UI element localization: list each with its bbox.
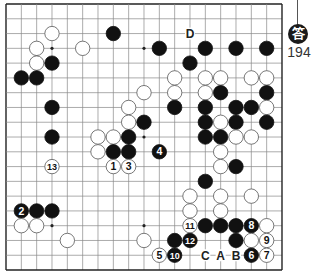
star-point <box>50 224 53 227</box>
white-stone <box>29 41 43 55</box>
star-point <box>50 47 53 50</box>
white-stone <box>229 130 243 144</box>
white-stone: 1 <box>106 159 120 173</box>
white-stone <box>29 56 43 70</box>
black-stone <box>45 130 59 144</box>
black-stone <box>29 204 43 218</box>
black-stone <box>198 219 212 233</box>
white-stone <box>106 130 120 144</box>
black-stone: 8 <box>244 219 258 233</box>
black-stone <box>14 71 28 85</box>
move-number: 8 <box>248 219 254 231</box>
white-stone <box>198 71 212 85</box>
white-stone: 11 <box>183 219 197 233</box>
move-number: 3 <box>126 160 132 172</box>
black-stone <box>198 41 212 55</box>
move-number: 7 <box>264 249 270 261</box>
black-stone <box>213 130 227 144</box>
move-number: 2 <box>18 205 24 217</box>
answer-badge-icon: 答 <box>288 24 308 44</box>
black-stone <box>45 56 59 70</box>
white-stone: 3 <box>121 159 135 173</box>
black-stone: 4 <box>152 145 166 159</box>
black-stone <box>137 115 151 129</box>
black-stone <box>229 100 243 114</box>
white-stone <box>244 233 258 247</box>
white-stone <box>183 189 197 203</box>
black-stone <box>152 41 166 55</box>
move-number: 12 <box>185 236 195 246</box>
black-stone <box>213 219 227 233</box>
white-stone <box>244 130 258 144</box>
star-point <box>142 224 145 227</box>
white-stone <box>259 219 273 233</box>
white-stone <box>213 145 227 159</box>
black-stone <box>45 100 59 114</box>
problem-number: 194 <box>284 44 314 60</box>
white-stone <box>259 71 273 85</box>
white-stone <box>75 41 89 55</box>
move-number: 9 <box>264 234 270 246</box>
black-stone <box>259 85 273 99</box>
white-stone: 13 <box>45 159 59 173</box>
white-stone <box>14 219 28 233</box>
white-stone <box>29 219 43 233</box>
black-stone <box>259 41 273 55</box>
black-stone <box>121 130 135 144</box>
black-stone <box>229 41 243 55</box>
white-stone <box>91 145 105 159</box>
black-stone <box>198 100 212 114</box>
black-stone <box>121 145 135 159</box>
black-stone <box>198 130 212 144</box>
black-stone <box>229 219 243 233</box>
white-stone <box>137 233 151 247</box>
white-stone <box>259 100 273 114</box>
white-stone <box>213 115 227 129</box>
white-stone <box>60 233 74 247</box>
white-stone <box>167 85 181 99</box>
white-stone <box>91 130 105 144</box>
white-stone <box>121 100 135 114</box>
black-stone <box>106 26 120 40</box>
white-stone <box>183 204 197 218</box>
black-stone: 12 <box>183 233 197 247</box>
white-stone: 9 <box>259 233 273 247</box>
go-board: 41313211812951067 DCAB <box>0 0 290 274</box>
black-stone <box>106 145 120 159</box>
white-stone <box>244 71 258 85</box>
black-stone <box>45 204 59 218</box>
white-stone <box>198 85 212 99</box>
move-number: 1 <box>110 160 116 172</box>
point-label: A <box>216 249 225 263</box>
white-stone <box>45 26 59 40</box>
black-stone <box>167 100 181 114</box>
white-stone <box>213 189 227 203</box>
white-stone <box>213 204 227 218</box>
black-stone <box>229 159 243 173</box>
white-stone: 7 <box>259 248 273 262</box>
white-stone <box>213 159 227 173</box>
black-stone <box>213 85 227 99</box>
black-stone <box>259 115 273 129</box>
black-stone <box>198 174 212 188</box>
move-number: 10 <box>170 251 180 261</box>
black-stone <box>229 233 243 247</box>
black-stone: 6 <box>244 248 258 262</box>
white-stone <box>213 71 227 85</box>
move-number: 4 <box>156 145 162 157</box>
black-stone <box>183 56 197 70</box>
move-number: 6 <box>248 249 254 261</box>
white-stone <box>167 71 181 85</box>
black-stone <box>229 115 243 129</box>
white-stone: 5 <box>152 248 166 262</box>
black-stone <box>198 115 212 129</box>
move-number: 13 <box>47 162 57 172</box>
white-stone <box>137 85 151 99</box>
white-stone <box>244 189 258 203</box>
point-label: C <box>201 249 210 263</box>
point-label: B <box>232 249 241 263</box>
star-point <box>142 135 145 138</box>
black-stone: 2 <box>14 204 28 218</box>
black-stone <box>29 71 43 85</box>
star-point <box>142 47 145 50</box>
